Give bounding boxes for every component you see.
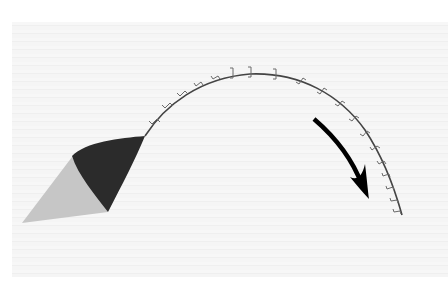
incision-line: [145, 74, 402, 215]
direction-arrow-shaft: [314, 119, 362, 185]
incision-diagram: [0, 0, 448, 303]
diagram-canvas: [0, 0, 448, 303]
